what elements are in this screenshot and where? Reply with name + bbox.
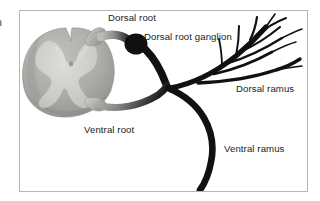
spinal-nerve-figure: n (0, 0, 320, 201)
dorsal-ramus-branch-7 (219, 39, 222, 68)
label-ventral-root: Ventral root (84, 125, 134, 135)
dorsal-ramus (170, 14, 302, 88)
ventral-ramus-trunk (168, 88, 212, 190)
dorsal-ramus-twig-2 (282, 29, 302, 38)
label-dorsal-root: Dorsal root (108, 13, 156, 23)
dorsal-ramus-branch-5 (258, 18, 286, 34)
label-dorsal-ramus: Dorsal ramus (236, 84, 294, 94)
dorsal-ramus-twig-1 (272, 42, 296, 52)
label-ventral-ramus: Ventral ramus (224, 144, 285, 154)
dorsal-root (85, 28, 130, 46)
central-canal (69, 62, 73, 66)
label-dorsal-root-ganglion: Dorsal root ganglion (144, 32, 232, 42)
spinal-nerve-segment (145, 49, 166, 84)
